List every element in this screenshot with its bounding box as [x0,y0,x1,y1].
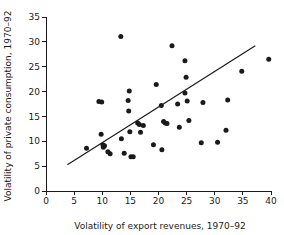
data-point [266,57,271,62]
data-point [127,129,132,134]
data-point [108,151,113,156]
data-point [119,136,124,141]
x-tick-label: 30 [209,196,221,206]
data-point [186,118,191,123]
data-point [127,89,132,94]
data-point [122,151,127,156]
data-point [99,100,104,105]
data-point [154,82,159,87]
data-point [170,43,175,48]
x-tick-label: 5 [71,196,77,206]
y-tick-label: 25 [29,62,40,72]
data-point [199,140,204,145]
scatter-chart: 05101520253035 0510152025303540 Volatili… [0,0,284,235]
y-tick-label: 10 [29,136,41,146]
data-point [215,140,220,145]
x-tick-label: 25 [181,196,192,206]
data-point [102,143,107,148]
y-tick-label: 15 [29,112,40,122]
y-axis-ticks [42,17,46,191]
data-point [185,99,190,104]
data-point [138,130,143,135]
data-point [159,103,164,108]
data-points [84,34,271,159]
data-point [182,58,187,63]
plot-area: 05101520253035 0510152025303540 Volatili… [0,0,284,235]
data-point [200,100,205,105]
data-point [131,154,136,159]
data-point [118,34,123,39]
x-tick-label: 0 [43,196,49,206]
data-point [182,91,187,96]
data-point [151,142,156,147]
data-point [159,147,164,152]
data-point [164,121,169,126]
y-tick-label: 35 [29,12,40,22]
x-axis-tick-labels: 0510152025303540 [43,196,277,206]
data-point [224,128,229,133]
y-axis-tick-labels: 05101520253035 [29,12,41,196]
x-tick-label: 20 [153,196,165,206]
y-tick-label: 30 [29,37,41,47]
data-point [184,75,189,80]
x-axis-label: Volatility of export revenues, 1970–92 [74,221,245,231]
x-tick-label: 40 [265,196,277,206]
x-axis-ticks [46,191,271,195]
axis-lines [46,17,271,191]
data-point [84,146,89,151]
data-point [141,123,146,128]
x-tick-label: 35 [237,196,248,206]
data-point [239,69,244,74]
y-axis-label: Volatility of private consumption, 1970–… [3,11,13,202]
x-tick-label: 15 [125,196,136,206]
y-tick-label: 5 [34,161,40,171]
data-point [175,102,180,107]
data-point [225,98,230,103]
data-point [126,98,131,103]
y-tick-label: 20 [29,87,41,97]
data-point [177,125,182,130]
data-point [99,132,104,137]
x-tick-label: 10 [97,196,109,206]
data-point [126,108,131,113]
y-tick-label: 0 [34,186,40,196]
